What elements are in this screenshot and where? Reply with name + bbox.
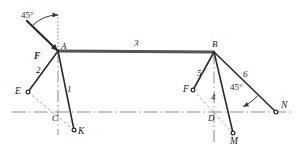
main-beam-member-3 — [58, 51, 214, 52]
member-label-5: 5 — [197, 69, 202, 78]
member-4 — [214, 52, 233, 133]
member-6 — [214, 52, 276, 112]
node-marker-n — [274, 110, 278, 114]
angle-label-left: 45° — [21, 11, 34, 20]
member-label-6: 6 — [243, 70, 248, 79]
angle-arc-left-arrowhead — [53, 13, 59, 18]
member-label-4: 4 — [211, 93, 216, 102]
node-marker-f2 — [191, 88, 195, 92]
node-label-e: E — [15, 87, 21, 97]
node-label-d: D — [208, 114, 215, 123]
diagram-canvas — [0, 0, 297, 157]
node-label-n: N — [281, 101, 287, 111]
node-marker-e — [26, 90, 30, 94]
node-label-k: K — [78, 127, 84, 137]
member-1 — [58, 51, 74, 130]
node-label-m: M — [230, 137, 238, 147]
force-label-f-left: F — [34, 52, 40, 62]
node-marker-k — [72, 128, 76, 132]
member-label-3: 3 — [134, 39, 139, 48]
node-marker-m — [231, 131, 235, 135]
member-2 — [28, 51, 58, 92]
node-label-a: A — [61, 42, 67, 51]
angle-label-right: 45° — [230, 83, 243, 92]
angle-arc-right-arrowhead — [243, 102, 249, 107]
member-label-2: 2 — [36, 66, 41, 75]
node-label-f-right: F — [183, 85, 189, 95]
node-label-c: C — [52, 114, 58, 123]
member-label-1: 1 — [67, 85, 72, 94]
truss-diagram: A B C D E F F K M N 1 2 3 4 5 6 45° 45° — [0, 0, 297, 157]
node-label-b: B — [212, 40, 218, 49]
